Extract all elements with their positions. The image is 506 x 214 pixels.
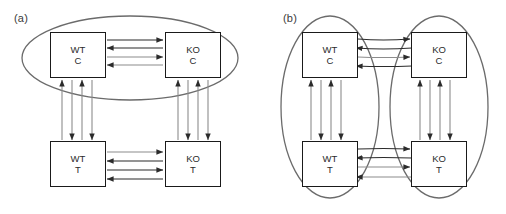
panel-a-right-vertical-arrows [178,80,208,140]
node-label-line2: T [436,164,442,176]
panel-b-node-wt-t: WT T [302,141,358,187]
node-label-line1: WT [71,153,86,165]
panel-a-node-wt-t: WT T [50,141,106,187]
node-label-line2: T [327,164,333,176]
panel-b-node-ko-t: KO T [411,141,467,187]
node-label-line2: C [327,55,334,67]
panel-b-right-vertical-arrows [420,80,450,140]
panel-a-node-ko-t: KO T [165,141,221,187]
panel-b-arrow-layer [253,0,506,214]
node-label-line2: T [75,164,81,176]
panel-b-node-ko-c: KO C [411,32,467,78]
node-label-line2: C [436,55,443,67]
panel-a-node-ko-c: KO C [165,32,221,78]
node-label-line1: KO [186,44,200,56]
panel-a-top-horizontal-arrows [107,40,163,65]
panel-a-node-wt-c: WT C [50,32,106,78]
panel-b-top-horizontal-arrows [356,39,412,67]
panel-a: (a) [0,0,253,214]
panel-b-left-vertical-arrows [311,80,341,140]
node-label-line1: KO [432,153,446,165]
node-label-line2: C [75,55,82,67]
node-label-line1: KO [432,44,446,56]
panel-a-left-vertical-arrows [62,80,92,140]
node-label-line1: KO [186,153,200,165]
node-label-line1: WT [323,153,338,165]
node-label-line2: C [190,55,197,67]
node-label-line1: WT [71,44,86,56]
panel-b-node-wt-c: WT C [302,32,358,78]
panel-a-bottom-horizontal-arrows [107,152,163,179]
node-label-line2: T [190,164,196,176]
panel-b-bottom-horizontal-arrows [356,149,412,178]
node-label-line1: WT [323,44,338,56]
panel-b: (b) [253,0,506,214]
